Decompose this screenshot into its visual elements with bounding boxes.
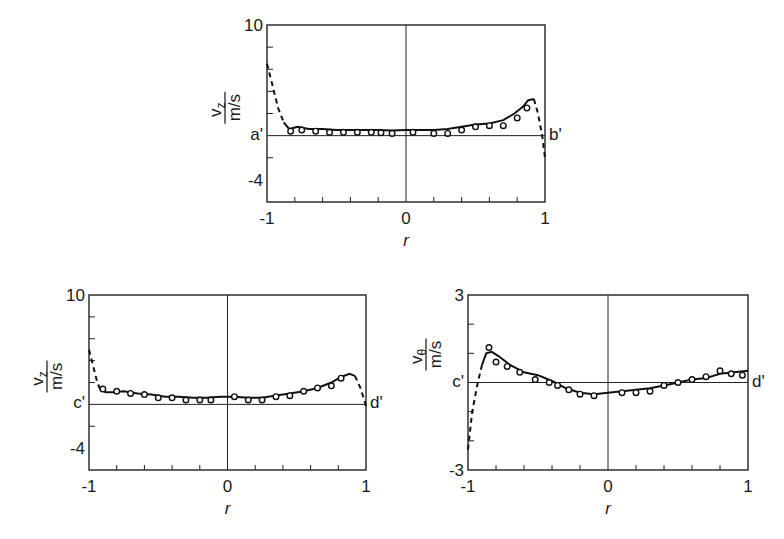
x-tick-label: 0 <box>223 477 232 496</box>
left-marker: c' <box>452 372 464 391</box>
data-point-marker <box>232 394 238 400</box>
x-axis-label: r <box>225 499 232 518</box>
data-point-marker <box>155 395 161 401</box>
figure: 10-4-101ra'b'vzm/s 10-4-101rc'd'vzm/s 3-… <box>0 0 784 539</box>
data-point-marker <box>378 130 384 136</box>
x-axis-label: r <box>403 231 410 250</box>
data-point-marker <box>197 397 203 403</box>
data-point-marker <box>517 369 523 375</box>
x-tick-label: -1 <box>81 477 96 496</box>
data-point-marker <box>410 130 416 136</box>
data-point-marker <box>301 388 307 394</box>
x-tick-label: 1 <box>743 477 752 496</box>
right-marker: b' <box>549 125 562 144</box>
chart-top: 10-4-101ra'b'vzm/s <box>206 16 562 250</box>
data-point-marker <box>355 130 361 136</box>
data-point-marker <box>273 394 279 400</box>
x-tick-label: 1 <box>361 477 370 496</box>
left-marker: a' <box>250 125 263 144</box>
y-axis-label: vθm/s <box>407 339 445 371</box>
data-point-marker <box>459 127 465 133</box>
x-tick-label: 0 <box>401 209 410 228</box>
left-marker: c' <box>73 393 85 412</box>
right-marker: d' <box>370 393 383 412</box>
data-point-marker <box>591 393 597 399</box>
dashed-curve <box>89 350 100 389</box>
dashed-curve <box>468 365 482 450</box>
data-point-marker <box>703 374 709 380</box>
data-point-marker <box>473 124 479 130</box>
y-tick-label: -4 <box>248 171 263 190</box>
data-point-marker <box>329 383 335 389</box>
chart-bottom-left: 10-4-101rc'd'vzm/s <box>28 286 383 518</box>
y-tick-label: 3 <box>455 286 464 305</box>
data-point-marker <box>689 377 695 383</box>
chart-bottom-right: 3-3-101rc'd'vθm/s <box>407 286 765 518</box>
x-tick-label: -1 <box>259 209 274 228</box>
data-point-marker <box>327 130 333 136</box>
data-point-marker <box>633 390 639 396</box>
data-point-marker <box>338 375 344 381</box>
data-point-marker <box>259 397 265 403</box>
data-point-marker <box>740 372 746 378</box>
y-tick-label: 10 <box>66 286 85 305</box>
data-point-marker <box>546 380 552 386</box>
solid-curve <box>284 99 534 131</box>
data-point-marker <box>128 391 134 397</box>
data-point-marker <box>717 368 723 374</box>
data-point-marker <box>169 395 175 401</box>
dashed-curve <box>534 99 545 158</box>
data-point-marker <box>288 128 294 134</box>
y-axis-label: vzm/s <box>206 92 244 124</box>
y-axis-label: vzm/s <box>28 360 66 392</box>
data-point-marker <box>445 131 451 137</box>
data-point-marker <box>287 393 293 399</box>
data-point-marker <box>728 371 734 377</box>
data-point-marker <box>114 388 120 394</box>
svg-text:m/s: m/s <box>225 94 244 121</box>
data-point-marker <box>555 383 561 389</box>
y-tick-label: -4 <box>70 439 85 458</box>
data-point-marker <box>577 391 583 397</box>
data-point-marker <box>183 397 189 403</box>
data-point-marker <box>208 397 214 403</box>
svg-text:m/s: m/s <box>426 341 445 368</box>
x-axis-label: r <box>605 499 612 518</box>
data-point-marker <box>313 128 319 134</box>
data-point-marker <box>532 377 538 383</box>
data-point-marker <box>514 115 520 121</box>
x-tick-label: 1 <box>540 209 549 228</box>
data-point-marker <box>368 130 374 136</box>
data-point-marker <box>647 388 653 394</box>
data-point-marker <box>493 359 499 365</box>
data-point-marker <box>661 383 667 389</box>
right-marker: d' <box>752 372 765 391</box>
x-tick-label: -1 <box>460 477 475 496</box>
data-point-marker <box>142 392 148 398</box>
data-point-marker <box>619 390 625 396</box>
data-point-marker <box>501 123 507 129</box>
data-point-marker <box>431 131 437 137</box>
dashed-curve <box>355 376 366 407</box>
data-point-marker <box>675 380 681 386</box>
data-point-marker <box>566 387 572 393</box>
data-point-marker <box>487 123 493 129</box>
data-point-marker <box>524 105 530 111</box>
data-point-marker <box>486 345 492 351</box>
data-point-marker <box>389 131 395 137</box>
data-point-marker <box>299 127 305 133</box>
data-point-marker <box>341 130 347 136</box>
data-point-marker <box>100 386 106 392</box>
data-point-marker <box>504 364 510 370</box>
data-point-marker <box>245 397 251 403</box>
data-point-marker <box>315 385 321 391</box>
y-tick-label: 10 <box>244 16 263 35</box>
x-tick-label: 0 <box>603 477 612 496</box>
svg-text:m/s: m/s <box>47 363 66 390</box>
